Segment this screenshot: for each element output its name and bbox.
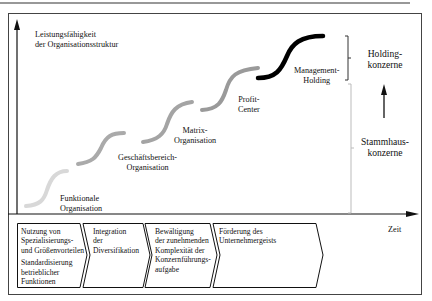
step-line: betrieblicher <box>21 268 84 277</box>
step-text-1: Nutzung von Spezialisierungs- und Größen… <box>21 227 84 286</box>
step-line: Bewältigung <box>155 227 211 236</box>
y-axis-label-line: der Organisationsstruktur <box>35 40 118 50</box>
step-line: Funktionen <box>21 277 84 286</box>
stage-label-line: Organisation <box>118 163 177 173</box>
stage-label-profit-center: Profit- Center <box>238 95 260 114</box>
step-line: Komplexität der <box>155 246 211 255</box>
group-label-line: Stammhaus- <box>357 136 413 147</box>
step-line: aufgabe <box>155 265 211 274</box>
step-text-2: Integration der Diversifikation <box>93 227 139 255</box>
stage-label-line: Profit- <box>238 95 260 105</box>
step-line: und Größenvorteilen <box>21 246 84 255</box>
bracket-holding <box>345 36 351 80</box>
x-axis-arrowhead-icon <box>406 211 419 217</box>
stage-label-line: Matrix- <box>174 126 216 136</box>
y-axis-label-line: Leistungsfähigkeit <box>35 30 118 40</box>
y-axis-arrowhead-icon <box>14 19 20 30</box>
step-line: Förderung des <box>219 227 276 236</box>
stage-label-funktionale: Funktionale Organisation <box>60 194 102 213</box>
stage-label-line: Organisation <box>60 204 102 214</box>
group-label-line: Holding- <box>361 48 409 59</box>
stage-label-line: Center <box>238 105 260 115</box>
growth-arrowhead-icon <box>381 84 387 95</box>
bracket-stammhaus <box>348 84 354 213</box>
step-text-3: Bewältigung der zunehmenden Komplexität … <box>155 227 211 274</box>
group-label-holding: Holding- konzerne <box>361 48 409 70</box>
step-line: Nutzung von <box>21 227 84 236</box>
step-text-4: Förderung des Unternehmergeists <box>219 227 276 246</box>
step-line: Unternehmergeists <box>219 236 276 245</box>
stage-label-geschaeftsbereich: Geschäftsbereich- Organisation <box>118 153 177 172</box>
step-line: der zunehmenden <box>155 236 211 245</box>
stage-label-line: Organisation <box>174 136 216 146</box>
stage-label-line: Holding <box>294 76 339 86</box>
x-axis-label: Zeit <box>388 225 401 235</box>
group-label-line: konzerne <box>357 147 413 158</box>
step-line: der <box>93 236 139 245</box>
step-line: Diversifikation <box>93 246 139 255</box>
step-line: Standardisierung <box>21 258 84 267</box>
stage-label-line: Funktionale <box>60 194 102 204</box>
step-line: Konzernführungs- <box>155 255 211 264</box>
stage-label-management-holding: Management- Holding <box>294 66 339 85</box>
group-label-stammhaus: Stammhaus- konzerne <box>357 136 413 158</box>
y-axis-label: Leistungsfähigkeit der Organisationsstru… <box>35 30 118 49</box>
stage-label-line: Geschäftsbereich- <box>118 153 177 163</box>
stage-label-line: Management- <box>294 66 339 76</box>
step-line: Integration <box>93 227 139 236</box>
group-label-line: konzerne <box>361 59 409 70</box>
stage-label-matrix: Matrix- Organisation <box>174 126 216 145</box>
step-line: Spezialisierungs- <box>21 236 84 245</box>
